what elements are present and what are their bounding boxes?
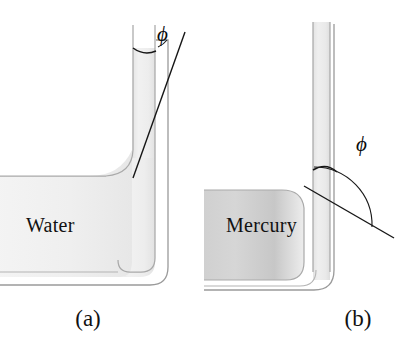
panel-water: ϕ Water (a) [0, 0, 204, 356]
water-phi-symbol: ϕ [157, 22, 168, 47]
mercury-panel-drawing [204, 0, 408, 356]
water-fluid-label: Water [26, 214, 75, 237]
water-body-fill [0, 48, 155, 277]
figure-root: ϕ Water (a) [0, 0, 408, 356]
caption-panel-b: (b) [328, 306, 388, 332]
caption-panel-a: (a) [58, 306, 118, 332]
panel-mercury: ϕ Mercury (b) [204, 0, 408, 356]
mercury-fluid-label: Mercury [226, 214, 297, 237]
tube-inner-wall [0, 25, 133, 176]
water-panel-drawing [0, 0, 204, 356]
mercury-body-fill [204, 22, 330, 280]
mercury-phi-symbol: ϕ [356, 132, 367, 157]
